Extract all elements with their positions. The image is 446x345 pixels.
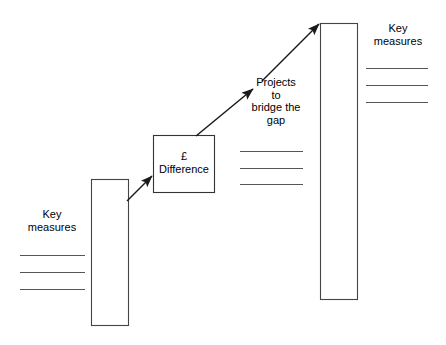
bar-right <box>321 24 358 300</box>
arrow-projects-to-bar <box>262 24 319 81</box>
projects-bridge-gap-label: Projects to bridge the gap <box>230 76 322 126</box>
key-measures-left-label: Key measures <box>12 208 92 233</box>
gap-analysis-diagram: Key measures £ Difference Projects to br… <box>0 0 446 345</box>
bar-left <box>92 180 129 326</box>
key-measures-left-rules <box>20 256 85 290</box>
diagram-canvas <box>0 0 446 345</box>
projects-rules <box>240 152 303 185</box>
key-measures-right-rules <box>366 69 428 103</box>
arrow-bar-to-difference <box>127 176 152 201</box>
difference-box-label: £ Difference <box>153 150 215 175</box>
key-measures-right-label: Key measures <box>358 22 438 47</box>
